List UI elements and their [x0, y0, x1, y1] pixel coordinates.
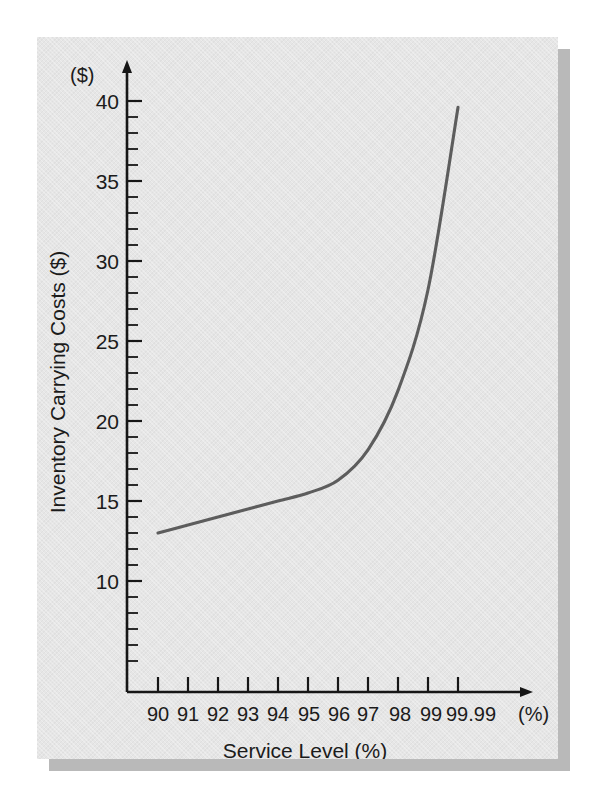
inventory-cost-curve	[158, 107, 458, 533]
x-tick-label-91: 91	[177, 703, 199, 725]
x-tick-label-98: 98	[389, 703, 411, 725]
x-tick-label-93: 93	[237, 703, 259, 725]
y-axis-title: Inventory Carrying Costs ($)	[46, 251, 69, 514]
figure-container: 40 35 30 25 20 15 10 ($) Inventory Carry…	[0, 0, 606, 810]
y-tick-label-25: 25	[96, 330, 119, 353]
x-ticks	[158, 677, 458, 692]
x-tick-label-95: 95	[298, 703, 320, 725]
y-tick-label-20: 20	[96, 410, 119, 433]
y-axis-unit-label: ($)	[70, 64, 94, 86]
x-tick-label-99-99: 99.99	[446, 703, 496, 725]
y-tick-label-10: 10	[96, 570, 119, 593]
x-axis-unit-label: (%)	[518, 703, 549, 725]
y-minor-ticks	[127, 117, 138, 661]
inventory-carrying-cost-chart: 40 35 30 25 20 15 10 ($) Inventory Carry…	[37, 37, 558, 759]
y-tick-label-15: 15	[96, 490, 119, 513]
x-tick-label-94: 94	[267, 703, 289, 725]
chart-panel: 40 35 30 25 20 15 10 ($) Inventory Carry…	[37, 37, 558, 759]
x-tick-label-99: 99	[420, 703, 442, 725]
x-tick-label-92: 92	[207, 703, 229, 725]
y-tick-label-35: 35	[96, 170, 119, 193]
y-tick-label-30: 30	[96, 250, 119, 273]
x-axis-arrow-icon	[520, 687, 533, 697]
y-tick-label-40: 40	[96, 90, 119, 113]
y-axis-arrow-icon	[122, 60, 132, 73]
x-tick-label-97: 97	[357, 703, 379, 725]
x-axis-title: Service Level (%)	[223, 739, 388, 759]
x-tick-label-96: 96	[328, 703, 350, 725]
x-tick-label-90: 90	[147, 703, 169, 725]
